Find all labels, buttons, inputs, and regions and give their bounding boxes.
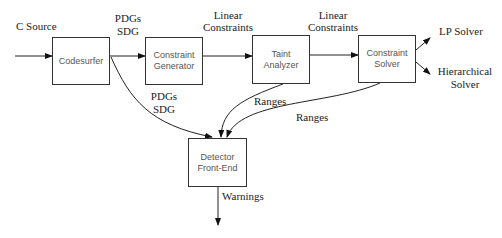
node-solver-label-2: Solver (374, 59, 400, 69)
node-solver-label-1: Constraint (366, 48, 407, 58)
pipeline-diagram: Codesurfer ConstraintGenerator TaintAnal… (0, 0, 502, 238)
edge-solver-detector (227, 83, 380, 137)
node-codesurfer-label: Codesurfer (59, 56, 104, 66)
node-constraint-solver: ConstraintSolver (358, 35, 416, 83)
label-pdgs-bottom-2: SDG (149, 103, 179, 116)
node-codesurfer: Codesurfer (52, 37, 110, 85)
label-pdgs-bottom-1: PDGs (149, 90, 179, 103)
label-pdgs-top-2: SDG (113, 25, 143, 38)
edge-taint-detector (221, 84, 283, 137)
edge-solver-hier (416, 62, 430, 74)
node-taint-label-1: Taint (271, 49, 290, 59)
node-generator-label-2: Generator (154, 61, 195, 71)
label-ranges-taint: Ranges (254, 95, 286, 108)
node-constraint-generator: ConstraintGenerator (145, 37, 203, 85)
label-ranges-solver: Ranges (296, 111, 328, 124)
label-hierarchical-1: Hierarchical (432, 65, 498, 78)
label-hierarchical-2: Solver (432, 78, 498, 91)
label-linear-1b: Constraints (200, 21, 256, 34)
label-c-source: C Source (16, 20, 57, 33)
node-detector-label-2: Front-End (197, 163, 237, 173)
node-taint-analyzer: TaintAnalyzer (252, 35, 310, 84)
label-lp-solver: LP Solver (439, 25, 483, 38)
edge-solver-lp (416, 38, 430, 50)
label-warnings: Warnings (222, 190, 264, 203)
node-taint-label-2: Analyzer (263, 60, 298, 70)
node-generator-label-1: Constraint (153, 50, 194, 60)
label-pdgs-top-1: PDGs (113, 12, 143, 25)
label-linear-2b: Constraints (305, 21, 361, 34)
node-detector-label-1: Detector (200, 152, 234, 162)
node-detector-front-end: DetectorFront-End (188, 138, 247, 187)
